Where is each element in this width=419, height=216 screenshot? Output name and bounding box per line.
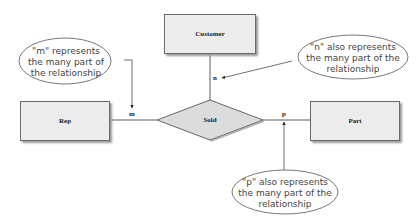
entity-rep: Rep <box>20 101 110 141</box>
entity-rep-label: Rep <box>59 117 71 125</box>
arrow-n <box>222 61 292 78</box>
entity-customer: Customer <box>164 14 256 54</box>
cardinality-p: p <box>282 110 286 118</box>
relationship-label: Sold <box>196 116 224 124</box>
cardinality-m: m <box>129 110 135 118</box>
note-p: "p" also represents the many part of the… <box>235 171 335 215</box>
cardinality-n: n <box>213 74 217 82</box>
entity-part-label: Part <box>348 117 361 125</box>
entity-customer-label: Customer <box>195 30 225 38</box>
note-m: "m" represents the many part of the rela… <box>24 40 108 84</box>
entity-part: Part <box>310 101 400 141</box>
note-n: "n" also represents the many part of the… <box>303 36 403 80</box>
arrow-m <box>124 60 132 108</box>
